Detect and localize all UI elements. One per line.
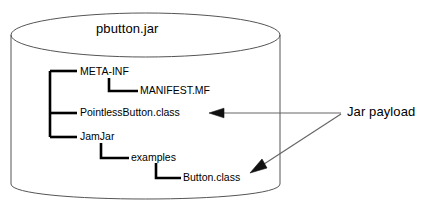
tree-elbow-examples — [101, 143, 129, 158]
tree-node-jamjar[interactable]: JamJar — [80, 131, 114, 142]
arrow-line-to-button-class — [261, 114, 341, 166]
arrow-left-icon-pointlessbutton — [209, 108, 224, 118]
tree-node-manifest-mf[interactable]: MANIFEST.MF — [140, 85, 210, 96]
tree-node-examples[interactable]: examples — [131, 152, 176, 163]
tree-node-button-class[interactable]: Button.class — [183, 172, 240, 183]
annotation-arrows — [209, 108, 341, 173]
diagram-canvas: pbutton.jar META-INF MANIFEST.MF Pointle… — [0, 0, 436, 218]
arrow-left-icon-button-class — [250, 159, 267, 173]
cylinder-bottom-arc — [11, 184, 280, 199]
tree-node-pointlessbutton-class[interactable]: PointlessButton.class — [80, 107, 180, 118]
annotation-label-jar-payload: Jar payload — [347, 105, 415, 118]
jar-title: pbutton.jar — [96, 22, 159, 35]
tree-elbow-manifest — [109, 78, 138, 91]
tree-elbow-button-class — [156, 163, 181, 178]
tree-node-meta-inf[interactable]: META-INF — [80, 66, 129, 77]
